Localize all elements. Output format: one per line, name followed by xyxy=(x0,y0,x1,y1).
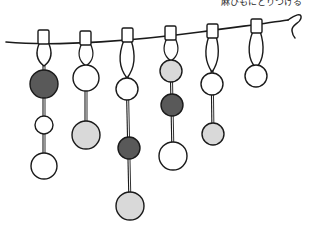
beaded-strands-illustration xyxy=(0,0,318,228)
strand-6-hanging-loop xyxy=(249,31,263,68)
strand-2-bead-2[interactable] xyxy=(72,121,100,149)
strand-5[interactable] xyxy=(201,24,224,145)
strand-4-bead-3[interactable] xyxy=(159,142,187,170)
strand-6[interactable] xyxy=(245,19,267,87)
strand-1-hanging-loop xyxy=(37,42,51,66)
strand-5-clip[interactable] xyxy=(207,24,218,38)
strand-4-bead-1[interactable] xyxy=(160,60,182,82)
strand-4[interactable] xyxy=(159,26,187,170)
strand-1[interactable] xyxy=(30,30,58,179)
strand-5-hanging-loop xyxy=(206,36,218,72)
strand-1-bead-2[interactable] xyxy=(35,116,53,134)
strand-1-bead-1[interactable] xyxy=(30,70,58,98)
strand-6-bead-1[interactable] xyxy=(245,65,267,87)
strand-1-bead-3[interactable] xyxy=(31,153,57,179)
illustration-canvas: 麻ひもにとりつける xyxy=(0,0,318,228)
cord-end-curl-icon xyxy=(288,15,301,38)
strand-3-clip[interactable] xyxy=(122,28,133,42)
strand-3-hanging-loop xyxy=(120,40,134,78)
strand-2[interactable] xyxy=(72,31,100,149)
strand-3-bead-2[interactable] xyxy=(118,137,140,159)
strand-5-bead-1[interactable] xyxy=(201,73,223,95)
strand-2-hanging-loop xyxy=(79,43,93,66)
strand-1-clip[interactable] xyxy=(38,30,49,44)
strand-3-bead-1[interactable] xyxy=(116,78,138,100)
strand-4-bead-2[interactable] xyxy=(161,94,183,116)
strand-2-clip[interactable] xyxy=(80,31,91,45)
strand-4-clip[interactable] xyxy=(165,26,176,40)
strand-6-clip[interactable] xyxy=(251,19,262,33)
strand-5-bead-2[interactable] xyxy=(202,123,224,145)
strand-3-bead-3[interactable] xyxy=(116,192,144,220)
strand-2-bead-1[interactable] xyxy=(73,65,99,91)
strand-4-hanging-loop xyxy=(164,38,178,61)
strand-3[interactable] xyxy=(116,28,144,220)
